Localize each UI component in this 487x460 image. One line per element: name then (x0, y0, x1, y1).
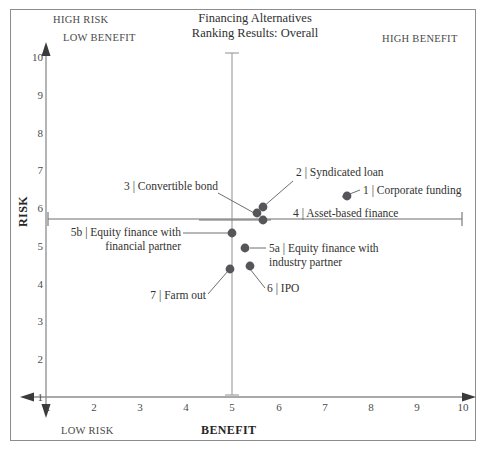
x-tick-4: 4 (183, 401, 189, 413)
y-tick-5: 5 (38, 240, 44, 252)
point-7-farm-out (226, 265, 235, 274)
point-label-3-convertible-bond: 3 | Convertible bond (108, 179, 218, 193)
leader-lines (183, 181, 360, 294)
y-axis-title: RISK (16, 182, 31, 242)
x-tick-7: 7 (322, 401, 328, 413)
reference-line-vertical (225, 53, 239, 395)
x-tick-5: 5 (229, 401, 235, 413)
y-tick-1: 1 (38, 391, 44, 403)
quadrant-label-low-benefit: LOW BENEFIT (63, 32, 136, 43)
x-tick-6: 6 (276, 401, 282, 413)
x-tick-10: 10 (458, 401, 469, 413)
x-tick-1: 1 (45, 401, 51, 413)
x-tick-9: 9 (414, 401, 420, 413)
point-label-5a-line1: 5a | Equity finance with (269, 241, 379, 255)
chart-title-line2: Ranking Results: Overall (160, 26, 350, 41)
point-label-5a-line2: industry partner (269, 255, 379, 269)
leader-3 (218, 193, 256, 214)
point-6-ipo (246, 262, 255, 271)
point-5b-equity-financial-partner (228, 229, 237, 238)
leader-2 (263, 181, 293, 207)
y-tick-7: 7 (38, 164, 44, 176)
x-tick-2: 2 (91, 401, 97, 413)
point-3-convertible-bond (253, 209, 262, 218)
point-label-2-syndicated-loan: 2 | Syndicated loan (296, 165, 384, 179)
y-tick-8: 8 (38, 127, 44, 139)
y-tick-4: 4 (38, 278, 44, 290)
leader-7 (208, 271, 228, 294)
y-tick-6: 6 (38, 202, 44, 214)
quadrant-label-high-risk: HIGH RISK (53, 14, 109, 25)
point-label-5a-equity-industry-partner: 5a | Equity finance with industry partne… (269, 241, 379, 269)
chart-page: Financing Alternatives Ranking Results: … (0, 0, 487, 460)
chart-title: Financing Alternatives Ranking Results: … (160, 11, 350, 41)
point-4-asset-based-finance (259, 216, 268, 225)
point-label-6-ipo: 6 | IPO (267, 281, 299, 295)
leader-6 (250, 269, 265, 288)
quadrant-label-low-risk: LOW RISK (61, 425, 114, 436)
y-tick-2: 2 (38, 353, 44, 365)
y-tick-10: 10 (32, 51, 43, 63)
y-tick-3: 3 (38, 315, 44, 327)
x-axis-title: BENEFIT (201, 423, 256, 438)
point-label-5b-line1: 5b | Equity finance with (53, 225, 181, 239)
point-label-4-asset-based-finance: 4 | Asset-based finance (293, 206, 398, 220)
chart-title-line1: Financing Alternatives (160, 11, 350, 26)
x-tick-3: 3 (137, 401, 143, 413)
point-5a-equity-industry-partner (241, 244, 250, 253)
point-label-1-corporate-funding: 1 | Corporate funding (363, 183, 461, 197)
point-1-corporate-funding (343, 192, 352, 201)
y-tick-9: 9 (38, 89, 44, 101)
point-label-7-farm-out: 7 | Farm out (118, 288, 206, 302)
quadrant-label-high-benefit: HIGH BENEFIT (382, 33, 458, 44)
x-tick-8: 8 (368, 401, 374, 413)
point-label-5b-equity-financial-partner: 5b | Equity finance with financial partn… (53, 225, 181, 253)
point-label-5b-line2: financial partner (53, 239, 181, 253)
x-axis (20, 393, 476, 402)
